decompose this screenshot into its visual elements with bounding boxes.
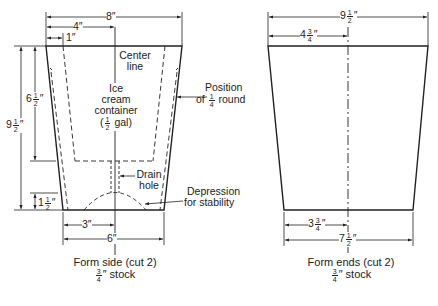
round-position-label: Position of 14 round [196, 82, 245, 108]
form-side-caption: Form side (cut 2) 34″ stock [60, 256, 170, 283]
dim-container-depth-whole: 6 [26, 92, 32, 104]
dim-end-half-top-width: 434″ [300, 28, 317, 43]
ice-cream-container-label: Ice cream container (12 gal) [90, 83, 142, 131]
dim-end-bottom-width: 712″ [339, 232, 356, 247]
dim-half-bottom-width: 3″ [82, 219, 92, 230]
form-ends-caption: Form ends (cut 2) 34″ stock [296, 256, 406, 283]
dim-bottom-width: 6″ [107, 233, 117, 244]
dim-base-height-frac: 12 [45, 196, 51, 211]
dim-end-half-bottom-width: 334″ [308, 217, 325, 232]
dim-base-height-whole: 1 [38, 196, 44, 208]
dim-total-height-frac: 12 [13, 118, 19, 133]
center-line-label: Center line [117, 50, 153, 72]
dim-top-width: 8″ [106, 11, 116, 22]
dim-end-top-width: 912″ [340, 9, 357, 24]
depression-label: Depression for stability [184, 186, 240, 208]
dim-container-depth-frac: 12 [33, 92, 39, 107]
drain-hole-label: Drain hole [134, 169, 164, 191]
dim-total-height: 912″ [6, 118, 23, 133]
dim-total-height-whole: 9 [6, 118, 12, 130]
dim-taper-offset: 1″ [66, 32, 76, 43]
dim-container-depth: 612″ [26, 92, 43, 107]
dim-base-height: 112″ [38, 196, 55, 211]
